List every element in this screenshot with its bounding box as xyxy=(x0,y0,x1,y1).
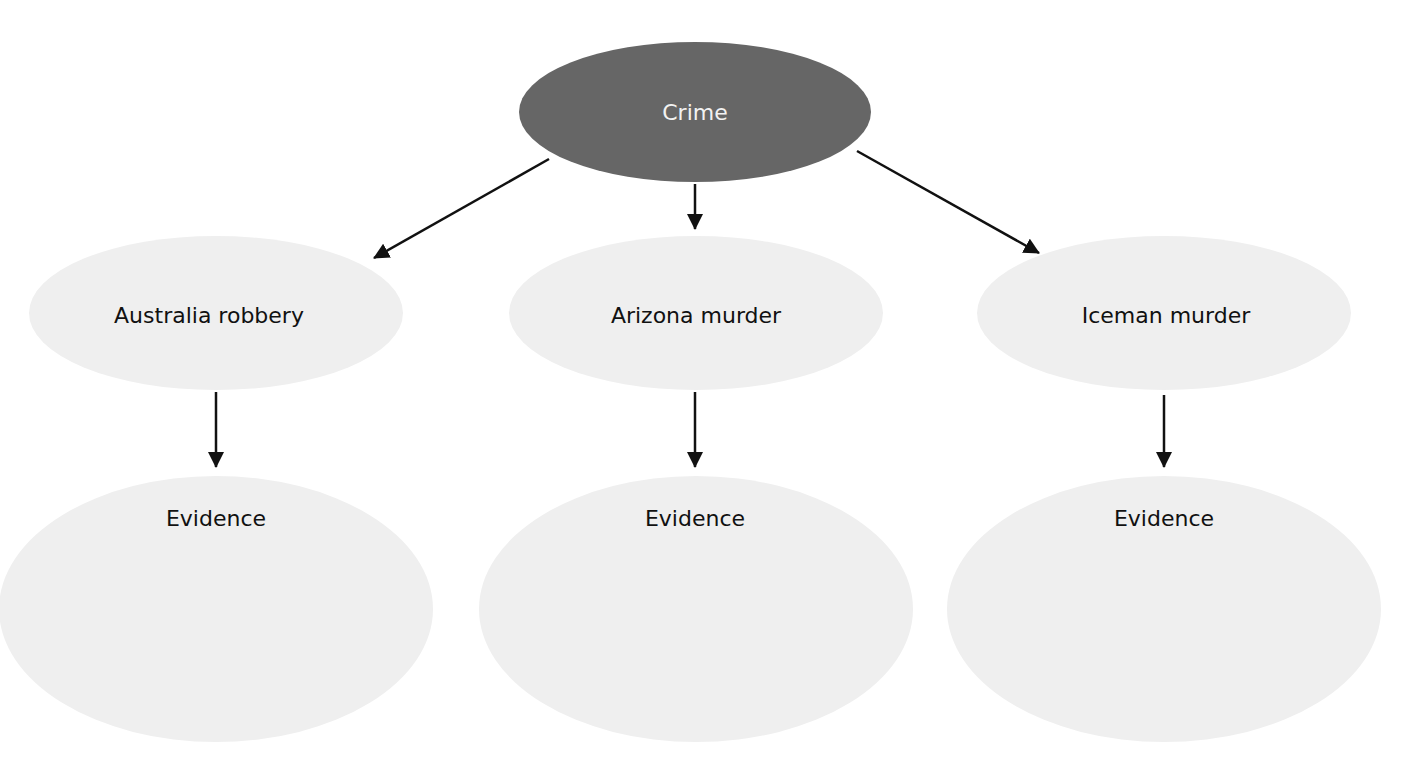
node-evidence-arizona-label: Evidence xyxy=(645,506,745,531)
node-evidence-arizona: Evidence xyxy=(479,476,913,742)
node-arizona-murder-label: Arizona murder xyxy=(611,303,782,328)
node-arizona-murder: Arizona murder xyxy=(509,236,883,390)
node-iceman-murder: Iceman murder xyxy=(977,236,1351,390)
node-iceman-murder-label: Iceman murder xyxy=(1082,303,1252,328)
node-crime: Crime xyxy=(519,42,871,182)
node-evidence-australia-label: Evidence xyxy=(166,506,266,531)
crime-diagram: Crime Australia robbery Arizona murder I… xyxy=(0,0,1422,764)
node-crime-label: Crime xyxy=(662,100,727,125)
edge-crime-iceman xyxy=(857,151,1039,253)
node-australia-robbery: Australia robbery xyxy=(29,236,403,390)
edge-crime-australia xyxy=(374,159,549,258)
node-evidence-iceman: Evidence xyxy=(947,476,1381,742)
node-australia-robbery-label: Australia robbery xyxy=(114,303,304,328)
node-evidence-australia: Evidence xyxy=(0,476,433,742)
node-evidence-iceman-label: Evidence xyxy=(1114,506,1214,531)
